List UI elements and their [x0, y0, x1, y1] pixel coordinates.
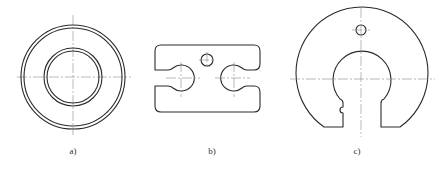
- figure-c-open-ring-plate: [290, 7, 435, 137]
- technical-drawing-canvas: [0, 0, 441, 171]
- figure-b-label: b): [208, 146, 216, 156]
- figure-a-label: a): [70, 146, 77, 156]
- figure-b-plate-outline: [155, 45, 260, 112]
- figure-a-washer: [17, 15, 131, 135]
- figure-b-slotted-plate: [155, 45, 260, 112]
- figure-c-label: c): [354, 146, 361, 156]
